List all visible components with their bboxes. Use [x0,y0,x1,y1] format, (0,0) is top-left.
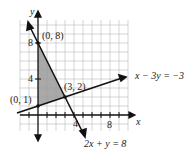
vertex-label-0-8: (0, 8) [42,30,64,42]
x-axis-label: x [135,116,141,127]
y-axis-label: y [29,6,35,17]
vertex-point [63,95,67,99]
vertex-label-3-2: (3, 2) [64,81,86,93]
tick-label-y-4: 4 [28,73,33,84]
tick-label-x-8: 8 [107,119,112,130]
tick-label-x-4: 4 [73,118,78,129]
line-label-x-minus-3y: x − 3y = −3 [134,70,184,81]
line-label-2x-plus-y: 2x + y = 8 [84,138,126,149]
tick-label-y-8: 8 [28,37,33,48]
vertex-point [36,104,40,108]
vertex-point [36,41,40,45]
graph: y x 4 8 4 8 (0, 8) (3, 2) (0, 1) x − 3y … [0,0,187,156]
vertex-label-0-1: (0, 1) [10,94,32,106]
